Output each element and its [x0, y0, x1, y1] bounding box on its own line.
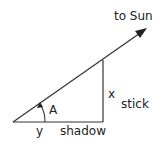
stick-label: stick	[121, 98, 149, 110]
arrowhead-icon	[135, 28, 147, 38]
angle-label: A	[49, 104, 57, 116]
shadow-var-label: y	[36, 125, 43, 137]
to-sun-label: to Sun	[114, 10, 153, 22]
shadow-label: shadow	[60, 125, 106, 137]
stick-var-label: x	[108, 88, 115, 100]
